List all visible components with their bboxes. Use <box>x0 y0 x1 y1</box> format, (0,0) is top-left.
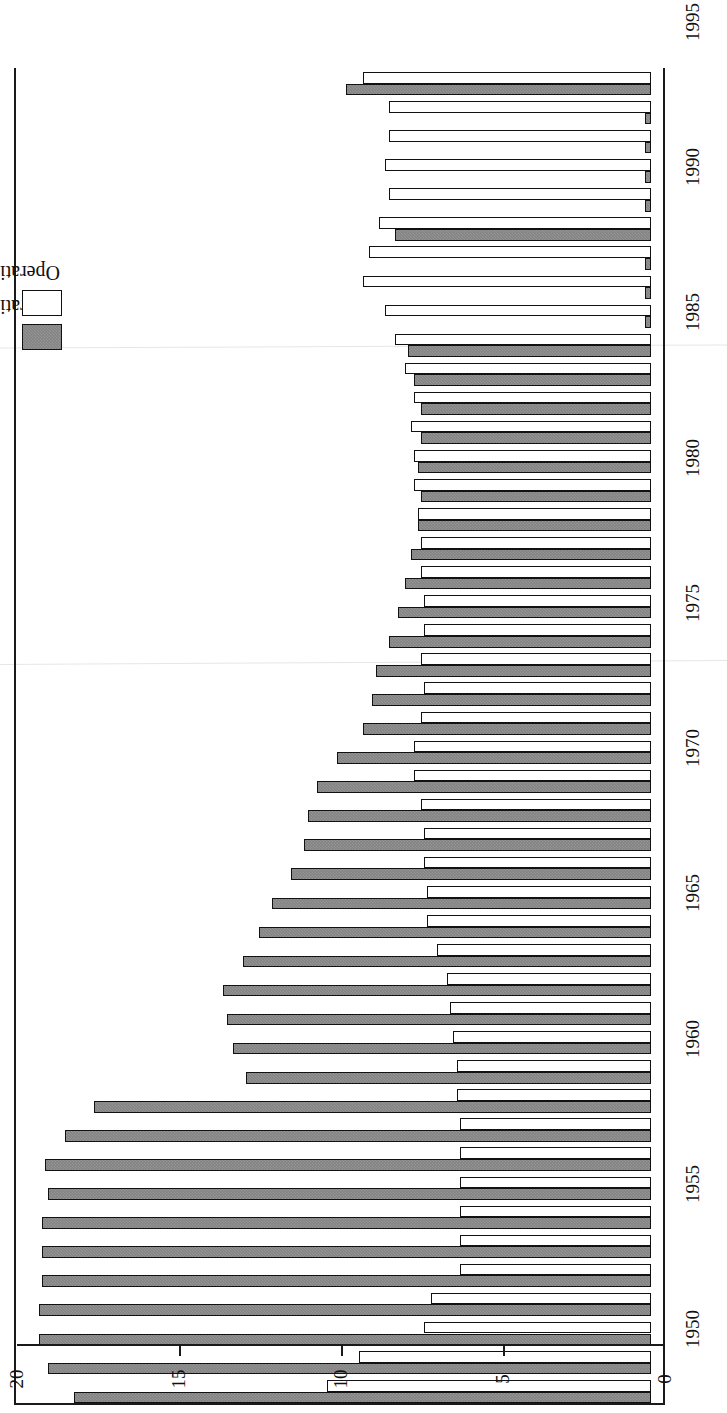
bar-operating-expense <box>405 578 651 590</box>
value-axis-label: 10 <box>330 1359 352 1399</box>
bar-operating-expense <box>411 549 651 561</box>
value-axis-label: 5 <box>492 1359 514 1399</box>
value-axis-label: 20 <box>6 1359 28 1399</box>
category-axis-label-1985: 1985 <box>682 284 704 340</box>
bar-operating-revenue <box>385 159 651 171</box>
bar-operating-revenue <box>460 1147 651 1159</box>
bar-operating-expense <box>421 432 651 444</box>
value-axis-baseline <box>17 1344 665 1346</box>
bar-operating-expense <box>414 374 651 386</box>
bar-operating-expense <box>42 1275 651 1287</box>
bar-operating-expense <box>308 810 651 822</box>
bar-operating-expense <box>645 287 651 299</box>
bar-operating-expense <box>408 345 651 357</box>
category-axis-label-1950: 1950 <box>682 1301 704 1357</box>
bar-operating-revenue <box>327 1380 651 1392</box>
bar-operating-expense <box>418 462 651 474</box>
bar-operating-revenue <box>418 508 651 520</box>
bar-operating-expense <box>259 927 651 939</box>
bar-operating-revenue <box>424 595 651 607</box>
bar-operating-expense <box>48 1188 651 1200</box>
category-axis-label-1970: 1970 <box>682 720 704 776</box>
bar-operating-revenue <box>421 712 651 724</box>
category-axis-label-1975: 1975 <box>682 575 704 631</box>
bar-operating-revenue <box>363 72 651 84</box>
bar-operating-expense <box>74 1392 651 1404</box>
bar-operating-expense <box>227 1014 651 1026</box>
bar-operating-expense <box>376 665 651 677</box>
category-axis-label-1965: 1965 <box>682 865 704 921</box>
bar-operating-revenue <box>427 886 651 898</box>
bar-operating-revenue <box>414 392 651 404</box>
bar-operating-expense <box>645 258 651 270</box>
bar-operating-expense <box>645 113 651 125</box>
bar-operating-revenue <box>411 421 651 433</box>
bar-operating-revenue <box>363 276 651 288</box>
value-axis-tick <box>179 68 180 1405</box>
bar-operating-revenue <box>424 682 651 694</box>
bar-operating-revenue <box>414 450 651 462</box>
bar-operating-expense <box>421 403 651 415</box>
bar-operating-expense <box>65 1130 651 1142</box>
bar-operating-expense <box>645 200 651 212</box>
bar-operating-revenue <box>389 188 651 200</box>
bar-operating-expense <box>223 985 651 997</box>
category-axis-label-1955: 1955 <box>682 1156 704 1212</box>
bar-operating-revenue <box>405 363 651 375</box>
bar-operating-revenue <box>424 624 651 636</box>
bar-operating-expense <box>645 171 651 183</box>
bar-operating-revenue <box>389 130 651 142</box>
value-axis-tick-mark <box>179 1345 181 1356</box>
bar-operating-revenue <box>414 741 651 753</box>
bar-operating-revenue <box>421 799 651 811</box>
bar-operating-revenue <box>421 566 651 578</box>
value-axis-tick-mark <box>341 1345 343 1356</box>
bar-operating-expense <box>94 1101 651 1113</box>
bar-operating-expense <box>272 898 651 910</box>
bar-operating-revenue <box>421 653 651 665</box>
legend-swatch-operating-revenue <box>22 290 62 316</box>
value-axis-label: 0 <box>654 1359 676 1399</box>
bar-operating-expense <box>398 607 651 619</box>
bar-operating-revenue <box>450 1002 651 1014</box>
bar-operating-expense <box>421 491 651 503</box>
value-axis-tick <box>665 68 666 1405</box>
bar-operating-expense <box>363 723 651 735</box>
bar-operating-revenue <box>460 1118 651 1130</box>
bar-operating-revenue <box>457 1060 651 1072</box>
bar-operating-revenue <box>427 915 651 927</box>
bar-operating-revenue <box>424 857 651 869</box>
bar-operating-expense <box>304 839 651 851</box>
bar-operating-revenue <box>414 770 651 782</box>
bar-operating-expense <box>372 694 651 706</box>
bar-operating-expense <box>418 520 651 532</box>
bar-operating-revenue <box>385 305 651 317</box>
bar-operating-revenue <box>460 1264 651 1276</box>
bar-operating-expense <box>243 956 651 968</box>
bar-operating-revenue <box>414 479 651 491</box>
category-axis-label-1995: 1995 <box>682 0 704 50</box>
bar-operating-expense <box>42 1217 651 1229</box>
bar-operating-revenue <box>424 1322 651 1334</box>
bar-operating-expense <box>45 1159 651 1171</box>
category-axis-label-1980: 1980 <box>682 430 704 486</box>
value-axis-label: 15 <box>168 1359 190 1399</box>
value-axis <box>14 68 665 1405</box>
legend-swatch-operating-expense <box>22 324 62 350</box>
bar-operating-expense <box>39 1304 651 1316</box>
bar-operating-revenue <box>460 1235 651 1247</box>
category-axis-label-1990: 1990 <box>682 139 704 195</box>
bar-operating-expense <box>389 636 651 648</box>
bar-operating-expense <box>395 229 651 241</box>
bar-operating-revenue <box>457 1089 651 1101</box>
category-axis-label-1960: 1960 <box>682 1011 704 1067</box>
bar-operating-revenue <box>389 101 651 113</box>
bar-operating-revenue <box>395 334 651 346</box>
bar-operating-expense <box>645 316 651 328</box>
bar-operating-revenue <box>453 1031 651 1043</box>
chart-canvas: Operating expense Operating revenue 0510… <box>0 0 727 1413</box>
value-axis-tick <box>341 68 342 1405</box>
bar-operating-expense <box>346 84 651 96</box>
bar-operating-expense <box>42 1246 651 1258</box>
bar-operating-revenue <box>421 537 651 549</box>
